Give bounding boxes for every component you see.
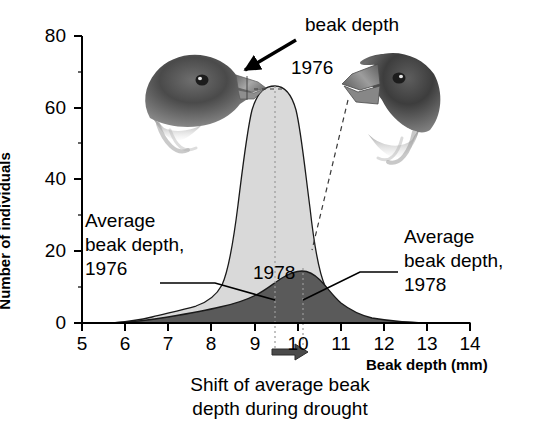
caption-line-2: depth during drought	[150, 398, 410, 419]
x-tick-label-14: 14	[450, 333, 490, 355]
beak-depth-arrow	[245, 40, 296, 70]
x-tick-label-12: 12	[364, 333, 404, 355]
y-tick-label-60: 60	[24, 97, 66, 119]
x-tick-label-7: 7	[148, 333, 188, 355]
y-axis-title: Number of individuals	[0, 152, 14, 310]
y-tick-label-40: 40	[24, 168, 66, 190]
average-1976-line2: beak depth,	[85, 234, 184, 255]
x-tick-label-5: 5	[62, 333, 102, 355]
x-axis-ticks	[82, 323, 470, 331]
x-tick-label-8: 8	[191, 333, 231, 355]
leader-line-1978-finch	[312, 100, 348, 250]
y-tick-label-20: 20	[24, 240, 66, 262]
caption-line-1: Shift of average beak	[150, 374, 410, 395]
average-1978-line3: 1978	[404, 274, 446, 295]
average-1978-line1: Average	[404, 226, 474, 247]
y-tick-label-0: 0	[36, 312, 66, 334]
average-1976-line1: Average	[85, 210, 155, 231]
finch-head-1978-illustration	[342, 53, 440, 163]
x-axis-title: Beak depth (mm)	[366, 356, 488, 374]
beak-depth-figure: 0 20 40 60 80 Number of individuals 5 6 …	[0, 0, 544, 442]
beak-depth-callout-label: beak depth	[305, 14, 399, 36]
average-1976-line3: 1976	[85, 258, 127, 279]
year-1978-peak-label: 1978	[253, 262, 295, 284]
x-tick-label-9: 9	[235, 333, 275, 355]
average-1978-line2: beak depth,	[404, 250, 503, 271]
x-tick-label-10: 10	[278, 333, 318, 355]
x-tick-label-13: 13	[407, 333, 447, 355]
x-tick-label-6: 6	[105, 333, 145, 355]
y-axis-ticks	[74, 36, 82, 323]
x-tick-label-11: 11	[321, 333, 361, 355]
year-1976-callout-label: 1976	[291, 57, 333, 79]
y-tick-label-80: 80	[24, 25, 66, 47]
